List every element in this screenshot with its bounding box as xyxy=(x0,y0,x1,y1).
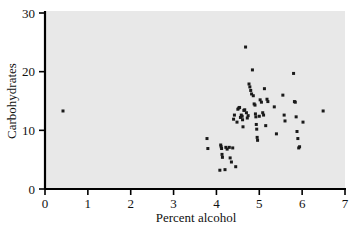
data-point xyxy=(296,137,299,140)
data-point xyxy=(242,125,245,128)
data-point xyxy=(256,139,259,142)
data-point xyxy=(252,94,255,97)
data-point xyxy=(258,115,261,118)
data-point xyxy=(254,115,257,118)
y-tick-label: 10 xyxy=(22,123,35,138)
chart-canvas: 01234567 0102030 Percent alcohol Carbohy… xyxy=(0,0,356,230)
data-point xyxy=(254,112,257,115)
data-point xyxy=(256,136,259,139)
x-tick-label: 5 xyxy=(256,196,263,211)
data-point xyxy=(264,124,267,127)
data-point xyxy=(249,89,252,92)
data-point xyxy=(206,147,209,150)
data-point xyxy=(233,114,236,117)
data-point xyxy=(322,109,325,112)
data-point xyxy=(62,109,65,112)
data-point xyxy=(251,68,254,71)
x-tick-label: 7 xyxy=(342,196,349,211)
data-point xyxy=(273,105,276,108)
y-axis-tick-labels: 0102030 xyxy=(22,6,35,197)
data-point xyxy=(221,156,224,159)
data-point xyxy=(236,121,239,124)
x-tick-label: 6 xyxy=(299,196,306,211)
data-point xyxy=(243,108,246,111)
data-point xyxy=(244,46,247,49)
data-point xyxy=(284,119,287,122)
x-axis-tick-labels: 01234567 xyxy=(42,196,349,211)
data-point xyxy=(275,132,278,135)
data-point xyxy=(262,114,265,117)
data-point xyxy=(228,146,231,149)
data-point xyxy=(263,87,266,90)
data-point xyxy=(220,147,223,150)
x-tick-label: 0 xyxy=(42,196,49,211)
data-point xyxy=(260,101,263,104)
data-point xyxy=(266,100,269,103)
data-point xyxy=(248,85,251,88)
data-point xyxy=(241,118,244,121)
x-tick-label: 1 xyxy=(85,196,92,211)
x-tick-label: 2 xyxy=(127,196,134,211)
data-point xyxy=(283,114,286,117)
data-point xyxy=(294,101,297,104)
plot-area-background xyxy=(45,11,345,189)
data-point xyxy=(245,111,248,114)
data-point xyxy=(238,106,241,109)
data-point xyxy=(241,115,244,118)
data-point xyxy=(221,153,224,156)
data-point xyxy=(302,121,305,124)
data-point xyxy=(248,82,251,85)
x-axis-title: Percent alcohol xyxy=(156,210,237,225)
data-point xyxy=(255,123,258,126)
y-axis-title: Carbohydrates xyxy=(4,63,19,139)
data-point xyxy=(292,72,295,75)
data-point xyxy=(206,137,209,140)
y-tick-label: 0 xyxy=(29,182,36,197)
data-point xyxy=(247,114,250,117)
data-point xyxy=(218,169,221,172)
x-tick-label: 4 xyxy=(213,196,220,211)
data-point xyxy=(231,146,234,149)
data-point xyxy=(255,128,258,131)
data-point xyxy=(254,104,257,107)
y-tick-label: 30 xyxy=(22,6,35,21)
data-point xyxy=(298,145,301,148)
data-point xyxy=(281,94,284,97)
data-point xyxy=(229,156,232,159)
data-point xyxy=(296,130,299,133)
data-point xyxy=(230,161,233,164)
data-point xyxy=(234,165,237,168)
x-tick-label: 3 xyxy=(170,196,177,211)
data-point xyxy=(295,115,298,118)
data-point xyxy=(232,118,235,121)
data-point xyxy=(224,168,227,171)
scatter-plot-figure: 01234567 0102030 Percent alcohol Carbohy… xyxy=(0,0,356,230)
y-tick-label: 20 xyxy=(22,64,35,79)
